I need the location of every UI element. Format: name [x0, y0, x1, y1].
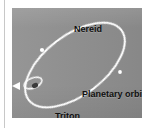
- nereid-body-marker-right: [118, 70, 122, 74]
- label-nereid: Nereid: [74, 25, 102, 34]
- label-triton: Triton: [55, 112, 80, 118]
- label-planetary-orbit: Planetary orbit: [82, 90, 142, 99]
- planetary-orbit-arrowhead: [12, 82, 20, 90]
- nereid-body-marker: [40, 48, 44, 52]
- triton-orbit-ellipse: [22, 75, 43, 91]
- diagram-panel: Nereid Planetary orbit Triton: [12, 8, 142, 118]
- left-margin-rule: [4, 0, 5, 128]
- orbit-diagram-figure: Nereid Planetary orbit Triton: [0, 0, 142, 128]
